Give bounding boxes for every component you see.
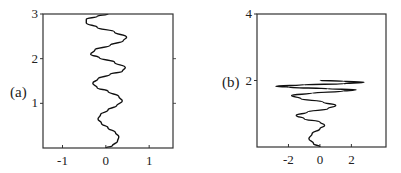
y-tick-label: 2 (246, 73, 253, 88)
y-tick-label: 2 (32, 51, 39, 66)
y-tick-label: 4 (246, 6, 253, 21)
panel-a-y-axis: 123 (32, 6, 44, 110)
y-tick-label: 1 (32, 95, 39, 110)
panel-b: (b) 24 -202 (222, 6, 386, 167)
panel-a: (a) 123 -101 (10, 6, 176, 168)
panel-b-y-axis: 24 (246, 6, 258, 88)
x-tick-label: 1 (146, 153, 153, 168)
figure-canvas: (a) 123 -101 (b) 24 -202 (0, 0, 401, 173)
panel-b-curve (276, 81, 364, 148)
panel-a-label: (a) (10, 84, 27, 101)
x-tick-label: 0 (317, 152, 324, 167)
x-tick-label: 2 (348, 152, 355, 167)
x-tick-label: -1 (57, 153, 68, 168)
x-tick-label: 0 (103, 153, 110, 168)
x-tick-label: -2 (283, 152, 294, 167)
panel-a-curve (86, 14, 126, 148)
panel-b-label: (b) (222, 74, 240, 91)
y-tick-label: 3 (32, 6, 39, 21)
